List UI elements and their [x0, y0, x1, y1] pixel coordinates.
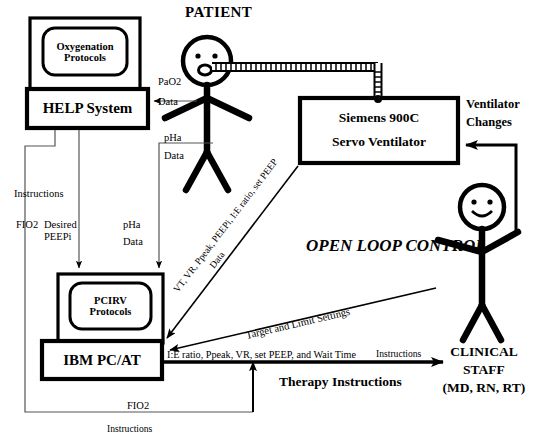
patient-figure: [165, 37, 249, 190]
ibm-pc-shape: [42, 341, 162, 379]
open-loop-control-title: OPEN LOOP CONTROL: [306, 200, 486, 292]
label-settings-list: I:E ratio, Ppeak, VR, set PEEP, and Wait…: [167, 349, 356, 360]
label-pha: pHa: [164, 132, 182, 144]
help-monitor-shape: [30, 18, 140, 90]
diagram-canvas: Oxygenation Protocols HELP System PCIRV …: [0, 0, 547, 445]
label-pao2-data: Data: [158, 96, 178, 108]
label-instructions-bottom: Instructions: [107, 424, 152, 435]
label-pha-left: pHa: [123, 219, 141, 231]
ventilator-label-line2: Servo Ventilator: [300, 134, 458, 149]
label-fio2-left: FIO2: [16, 219, 38, 231]
label-settings-instructions: Instructions: [376, 349, 421, 360]
label-ventilator-changes-line2: Changes: [466, 115, 512, 129]
label-fio2-bottom: FIO2: [127, 400, 149, 412]
clinical-staff-label-line3: (MD, RN, RT): [430, 380, 538, 395]
label-ventilator-changes-line1: Ventilator: [466, 97, 520, 111]
clinical-staff-label-line2: STAFF: [436, 362, 532, 377]
label-therapy-instructions: Therapy Instructions: [279, 374, 402, 389]
help-system-shape: [27, 89, 148, 128]
ventilator-shape: [300, 98, 458, 163]
pcirv-monitor-shape: [58, 274, 163, 343]
label-pao2: PaO2: [158, 76, 181, 88]
ventilator-label-line1: Siemens 900C: [300, 110, 458, 125]
label-instructions-top: Instructions: [14, 188, 64, 200]
label-pha-left-data: Data: [123, 236, 143, 248]
label-pha-data: Data: [164, 150, 184, 162]
label-desired-peepi: Desired PEEPi: [44, 219, 77, 243]
patient-label: PATIENT: [185, 4, 252, 21]
clinical-staff-label-line1: CLINICAL: [436, 344, 532, 359]
